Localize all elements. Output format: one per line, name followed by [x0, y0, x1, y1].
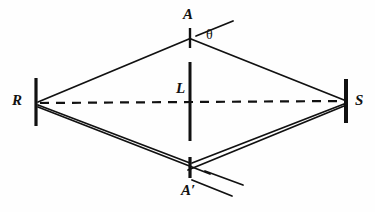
ray-R-to-lower-right [38, 107, 210, 174]
label-point-A: A [183, 7, 193, 22]
label-angle-theta: θ [206, 28, 213, 42]
ray-R-to-Aprime [38, 105, 190, 163]
label-point-S: S [355, 93, 363, 108]
extension-ray-below-Aprime-upper [205, 171, 243, 185]
diagram-canvas: A A′ R S L θ [0, 0, 375, 212]
diagram-vector-layer [0, 0, 375, 212]
label-barrier-L: L [176, 81, 185, 96]
label-point-A-prime: A′ [181, 183, 195, 198]
ray-A-to-S [191, 39, 344, 100]
label-point-R: R [12, 93, 22, 108]
extension-ray-below-Aprime-lower [192, 180, 232, 196]
ray-S-to-lower-left [188, 106, 344, 170]
ray-Aprime-to-S [192, 104, 344, 163]
ray-R-to-A [38, 39, 189, 102]
extension-ray-above-A [196, 21, 233, 36]
